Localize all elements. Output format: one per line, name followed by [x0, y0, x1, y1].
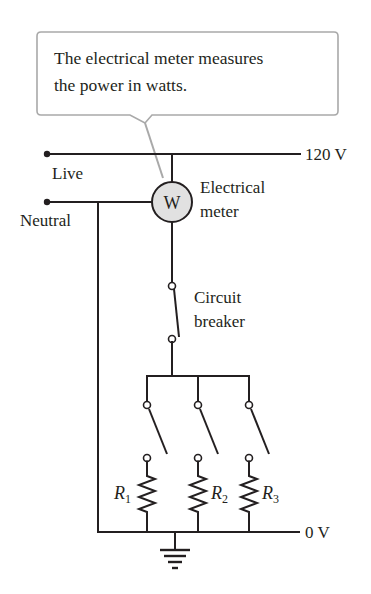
ground-icon — [160, 532, 190, 568]
switch-2-top-terminal — [195, 402, 202, 409]
switch-1-arm — [149, 409, 167, 454]
branch-2: R2 — [190, 376, 228, 532]
ground-rail: 0 V — [98, 523, 330, 542]
live-label: Live — [52, 164, 83, 183]
branch-1: R1 — [113, 376, 167, 532]
household-circuit-diagram: The electrical meter measures the power … — [0, 0, 371, 594]
neutral-label: Neutral — [20, 211, 71, 230]
switch-1-bottom-terminal — [144, 455, 151, 462]
switch-2-bottom-terminal — [195, 455, 202, 462]
breaker-label-line2: breaker — [194, 312, 245, 331]
resistor-2-icon — [190, 462, 206, 533]
switch-3-top-terminal — [246, 402, 253, 409]
callout: The electrical meter measures the power … — [37, 32, 338, 178]
resistor-3-label: R3 — [261, 483, 279, 506]
electrical-meter: W Electrical meter — [152, 178, 265, 222]
switch-1-top-terminal — [144, 402, 151, 409]
breaker-top-terminal — [169, 283, 176, 290]
resistor-3-icon — [241, 462, 257, 533]
breaker-label-line1: Circuit — [194, 288, 241, 307]
breaker-switch-arm — [174, 289, 179, 337]
circuit-breaker: Circuit breaker — [169, 283, 246, 343]
meter-label-line1: Electrical — [200, 178, 265, 197]
neutral-wire: Neutral — [20, 199, 152, 532]
switch-3-bottom-terminal — [246, 455, 253, 462]
resistor-1-icon — [139, 462, 155, 533]
callout-pointer — [145, 123, 163, 178]
branch-3: R3 — [241, 376, 279, 532]
callout-text-line2: the power in watts. — [54, 75, 187, 95]
live-voltage-label: 120 V — [305, 145, 347, 164]
resistor-2-label: R2 — [210, 483, 228, 506]
switch-3-arm — [251, 409, 269, 454]
meter-label-line2: meter — [200, 202, 239, 221]
ground-voltage-label: 0 V — [305, 523, 330, 542]
switch-2-arm — [200, 409, 218, 454]
callout-text-line1: The electrical meter measures — [54, 48, 264, 68]
meter-symbol: W — [164, 193, 181, 213]
resistor-1-label: R1 — [113, 483, 131, 506]
live-wire: Live 120 V — [44, 145, 348, 183]
